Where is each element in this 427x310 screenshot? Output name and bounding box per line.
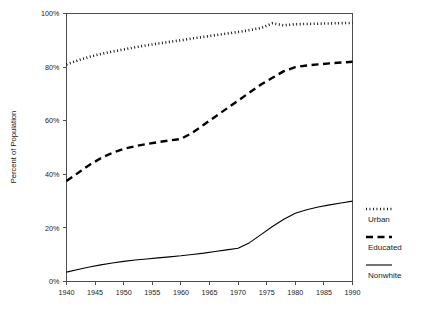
chart-legend: UrbanEducatedNonwhite: [366, 209, 402, 280]
x-tick-label: 1990: [345, 288, 361, 297]
plot-frame: [67, 14, 353, 282]
x-tick-label: 1950: [116, 288, 132, 297]
x-tick-label: 1965: [202, 288, 218, 297]
line-chart: 0%20%40%60%80%100% 194019451950195519601…: [0, 0, 427, 310]
legend-label-urban: Urban: [368, 215, 390, 224]
axis-frame: [67, 14, 353, 282]
series-line-urban: [67, 23, 353, 65]
x-tick-label: 1980: [287, 288, 303, 297]
series-line-nonwhite: [67, 201, 353, 272]
x-tick-label: 1960: [173, 288, 189, 297]
legend-label-educated: Educated: [368, 243, 402, 252]
x-tick-label: 1940: [59, 288, 75, 297]
y-tick-label: 40%: [45, 170, 60, 179]
data-series-group: [67, 23, 353, 272]
y-tick-label: 0%: [49, 277, 60, 286]
x-tick-label: 1945: [87, 288, 103, 297]
x-axis-ticks: [67, 282, 353, 286]
legend-label-nonwhite: Nonwhite: [368, 271, 402, 280]
y-tick-label: 20%: [45, 224, 60, 233]
y-axis-ticks: [63, 14, 67, 282]
x-tick-label: 1955: [144, 288, 160, 297]
y-tick-label: 80%: [45, 63, 60, 72]
chart-figure: 0%20%40%60%80%100% 194019451950195519601…: [0, 0, 427, 310]
x-axis-tick-labels: 1940194519501955196019651970197519801985…: [59, 288, 361, 297]
x-tick-label: 1975: [259, 288, 275, 297]
y-axis-tick-labels: 0%20%40%60%80%100%: [41, 9, 60, 286]
y-axis-title: Percent of Population: [9, 111, 18, 184]
series-line-educated: [67, 62, 353, 181]
y-tick-label: 60%: [45, 116, 60, 125]
x-tick-label: 1970: [230, 288, 246, 297]
x-tick-label: 1985: [316, 288, 332, 297]
y-tick-label: 100%: [41, 9, 60, 18]
